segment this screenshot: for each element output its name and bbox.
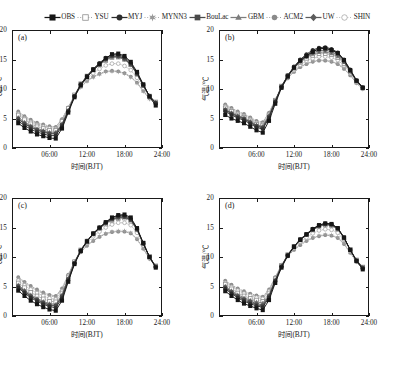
y-tick-mark-c-3 [12,228,16,229]
x-tick-mark-top-d-4 [369,198,370,202]
x-tick-mark-a-4 [162,145,163,149]
legend-marker-uw-icon [305,13,322,22]
y-tick-mark-right-d-3 [366,228,370,229]
series-ysu-a [16,55,157,132]
legend-label-shin: SHIN [354,13,370,21]
x-tick-label-c-1: 06:00 [41,319,57,327]
legend-item-mynn3[interactable]: MYNN3 [144,13,189,22]
x-tick-mark-a-0 [12,145,13,149]
y-tick-mark-right-b-1 [366,119,370,120]
x-tick-label-a-4: 24:00 [154,151,170,159]
x-tick-mark-top-b-2 [294,30,295,34]
x-tick-label-b-2: 12:00 [286,151,302,159]
x-axis-label-a: 时间(BJT) [12,160,162,171]
y-tick-label-d-3: 15 [194,224,214,232]
legend-item-uw[interactable]: UW [305,13,336,22]
y-tick-mark-a-3 [12,60,16,61]
y-tick-mark-right-d-1 [366,287,370,288]
x-tick-mark-b-4 [369,145,370,149]
x-tick-mark-b-0 [219,145,220,149]
y-tick-mark-right-a-3 [159,60,163,61]
x-tick-mark-a-2 [87,145,88,149]
legend-marker-acm2-icon [266,13,283,22]
x-tick-mark-top-d-1 [257,198,258,202]
x-tick-mark-top-a-4 [162,30,163,34]
y-tick-mark-a-0 [12,148,16,149]
y-tick-label-a-4: 20 [0,26,7,34]
x-tick-mark-a-1 [50,145,51,149]
x-tick-mark-d-2 [294,313,295,317]
y-tick-label-c-4: 20 [0,194,7,202]
legend-item-boulac[interactable]: BouLac [189,13,231,22]
y-tick-label-c-3: 15 [0,224,7,232]
x-tick-mark-top-b-1 [257,30,258,34]
y-tick-mark-c-1 [12,287,16,288]
y-tick-mark-b-3 [219,60,223,61]
x-axis-label-b: 时间(BJT) [219,160,369,171]
x-tick-mark-c-2 [87,313,88,317]
y-tick-mark-right-b-3 [366,60,370,61]
x-tick-mark-d-1 [257,313,258,317]
figure-container: OBSYSUMYJMYNN3BouLacGBMACM2UWSHIN (a) 气温… [0,0,416,368]
x-tick-mark-b-3 [332,145,333,149]
y-tick-label-a-0: 0 [0,144,7,152]
x-tick-mark-top-d-2 [294,198,295,202]
legend-item-myj[interactable]: MYJ [111,13,145,22]
legend-marker-myj-icon [111,13,128,22]
legend-marker-obs-icon [44,13,61,22]
legend-item-gbm[interactable]: GBM [230,13,266,22]
y-tick-label-b-1: 5 [194,115,214,123]
legend-item-ysu[interactable]: YSU [77,13,111,22]
legend-label-boulac: BouLac [206,13,228,21]
y-tick-mark-right-c-3 [159,228,163,229]
x-tick-mark-d-3 [332,313,333,317]
plot-area-b: (b) 气温/℃ 时间(BJT) 0510152006:0012:0018:00… [219,30,369,148]
y-tick-label-d-2: 10 [194,253,214,261]
legend-marker-mynn3-icon [144,13,161,22]
legend-label-myj: MYJ [128,13,142,21]
legend-item-shin[interactable]: SHIN [336,13,372,22]
x-tick-mark-top-a-0 [12,30,13,34]
panel-d: (d) 气温/℃ 时间(BJT) 0510152006:0012:0018:00… [219,198,369,316]
series-layer-c [12,198,162,316]
y-tick-mark-c-2 [12,257,16,258]
x-tick-label-a-1: 06:00 [41,151,57,159]
y-tick-label-a-1: 5 [0,115,7,123]
y-tick-mark-a-1 [12,119,16,120]
x-tick-mark-top-a-1 [50,30,51,34]
y-tick-label-b-2: 10 [194,85,214,93]
x-tick-label-d-1: 06:00 [248,319,264,327]
y-tick-mark-right-d-0 [366,316,370,317]
y-tick-mark-b-1 [219,119,223,120]
panel-a: (a) 气温/℃ 时间(BJT) 0510152006:0012:0018:00… [12,30,162,148]
y-tick-label-d-4: 20 [194,194,214,202]
legend-item-acm2[interactable]: ACM2 [266,13,305,22]
y-tick-label-b-3: 15 [194,56,214,64]
plot-area-a: (a) 气温/℃ 时间(BJT) 0510152006:0012:0018:00… [12,30,162,148]
x-tick-mark-top-c-3 [125,198,126,202]
x-tick-mark-top-b-4 [369,30,370,34]
legend-item-obs[interactable]: OBS [44,13,77,22]
series-layer-d [219,198,369,316]
x-tick-label-c-2: 12:00 [79,319,95,327]
x-tick-mark-d-0 [219,313,220,317]
legend-label-obs: OBS [61,13,75,21]
legend-label-uw: UW [323,13,335,21]
y-tick-mark-b-0 [219,148,223,149]
y-tick-label-a-3: 15 [0,56,7,64]
y-tick-mark-d-0 [219,316,223,317]
chart-legend: OBSYSUMYJMYNN3BouLacGBMACM2UWSHIN [0,8,416,26]
legend-marker-shin-icon [336,13,353,22]
y-tick-label-c-1: 5 [0,283,7,291]
legend-marker-ysu-icon [77,13,94,22]
x-axis-label-c: 时间(BJT) [12,328,162,339]
panel-b: (b) 气温/℃ 时间(BJT) 0510152006:0012:0018:00… [219,30,369,148]
series-obs-b [223,46,365,134]
y-tick-label-d-1: 5 [194,283,214,291]
x-tick-mark-top-c-4 [162,198,163,202]
x-axis-label-d: 时间(BJT) [219,328,369,339]
x-tick-mark-top-b-0 [219,30,220,34]
x-tick-label-a-2: 12:00 [79,151,95,159]
x-tick-label-a-3: 18:00 [116,151,132,159]
y-tick-label-a-2: 10 [0,85,7,93]
